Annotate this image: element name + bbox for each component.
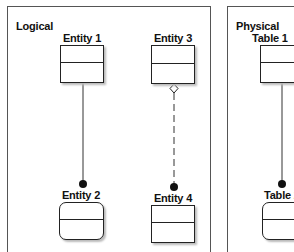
entity-4-label: Entity 4 (143, 192, 203, 204)
entity-2-box[interactable] (59, 202, 104, 240)
table-2-divider (263, 219, 294, 220)
table-1-box[interactable] (260, 45, 294, 83)
entity-2-divider (60, 219, 103, 220)
table-1-label: Table 1 (252, 32, 294, 44)
table-1-divider (261, 62, 294, 63)
filled-dot-icon (278, 180, 286, 188)
entity-4-box[interactable] (151, 205, 195, 243)
entity-3-label: Entity 3 (143, 32, 203, 44)
table-2-box[interactable] (262, 202, 294, 240)
filled-dot-icon (79, 180, 87, 188)
entity-3-box[interactable] (151, 45, 195, 84)
entity-1-label: Entity 1 (52, 32, 112, 44)
entity-2-label: Entity 2 (51, 189, 111, 201)
filled-dot-icon (170, 183, 178, 191)
table-2-label: Table 2 (264, 189, 294, 201)
entity-1-box[interactable] (60, 45, 104, 83)
entity-1-divider (61, 62, 103, 63)
open-diamond-icon (170, 84, 178, 93)
entity-3-divider (152, 63, 194, 64)
entity-4-divider (152, 222, 194, 223)
